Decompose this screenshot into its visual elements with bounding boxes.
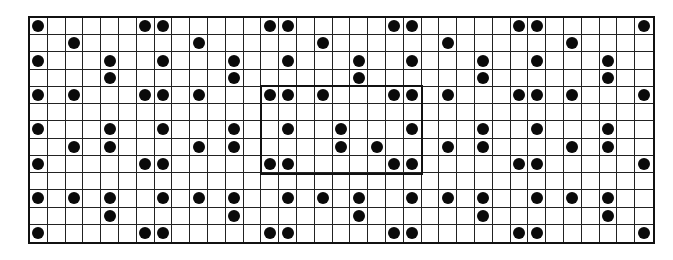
grid-cell bbox=[101, 70, 119, 87]
grid-cell bbox=[493, 139, 511, 156]
grid-cell bbox=[600, 225, 618, 242]
grid-cell bbox=[582, 139, 600, 156]
grid-cell bbox=[190, 104, 208, 121]
grid-cell bbox=[350, 87, 368, 104]
dot-icon bbox=[157, 192, 169, 204]
grid-cell bbox=[404, 52, 422, 69]
grid-cell bbox=[155, 208, 173, 225]
grid-cell bbox=[137, 35, 155, 52]
grid-cell bbox=[48, 87, 66, 104]
grid-cell bbox=[457, 18, 475, 35]
dot-icon bbox=[282, 158, 294, 170]
grid-cell bbox=[439, 208, 457, 225]
grid-cell bbox=[83, 225, 101, 242]
grid-cell bbox=[66, 70, 84, 87]
dot-icon bbox=[228, 210, 240, 222]
grid-cell bbox=[493, 52, 511, 69]
grid-cell bbox=[350, 208, 368, 225]
grid-cell bbox=[475, 225, 493, 242]
grid-cell bbox=[635, 70, 653, 87]
grid-cell bbox=[190, 18, 208, 35]
grid-cell bbox=[422, 225, 440, 242]
grid-cell bbox=[48, 18, 66, 35]
grid-cell bbox=[333, 156, 351, 173]
grid-cell bbox=[528, 156, 546, 173]
grid-cell bbox=[546, 156, 564, 173]
grid-cell bbox=[208, 35, 226, 52]
grid-cell bbox=[261, 52, 279, 69]
dot-icon bbox=[193, 192, 205, 204]
grid-cell bbox=[172, 156, 190, 173]
grid-cell bbox=[315, 208, 333, 225]
grid-cell bbox=[635, 104, 653, 121]
dot-icon bbox=[406, 55, 418, 67]
grid-cell bbox=[617, 139, 635, 156]
grid-cell bbox=[439, 87, 457, 104]
grid-cell bbox=[457, 173, 475, 190]
dot-icon bbox=[513, 89, 525, 101]
dot-icon bbox=[32, 123, 44, 135]
grid-cell bbox=[350, 70, 368, 87]
grid-cell bbox=[155, 104, 173, 121]
grid-cell bbox=[297, 18, 315, 35]
grid-cell bbox=[368, 173, 386, 190]
grid-cell bbox=[422, 52, 440, 69]
grid-cell bbox=[475, 139, 493, 156]
grid-cell bbox=[475, 87, 493, 104]
dot-icon bbox=[638, 20, 650, 32]
dot-icon bbox=[602, 55, 614, 67]
grid-cell bbox=[226, 35, 244, 52]
grid-cell bbox=[30, 156, 48, 173]
grid-cell bbox=[617, 52, 635, 69]
grid-cell bbox=[137, 156, 155, 173]
grid-cell bbox=[30, 190, 48, 207]
grid-cell bbox=[66, 190, 84, 207]
dot-icon bbox=[442, 192, 454, 204]
grid-cell bbox=[528, 139, 546, 156]
dot-icon bbox=[317, 37, 329, 49]
grid-cell bbox=[30, 70, 48, 87]
grid-cell bbox=[368, 18, 386, 35]
grid-cell bbox=[172, 208, 190, 225]
grid-cell bbox=[546, 121, 564, 138]
grid-cell bbox=[172, 190, 190, 207]
dot-icon bbox=[477, 192, 489, 204]
grid-cell bbox=[83, 52, 101, 69]
grid-cell bbox=[564, 156, 582, 173]
grid-cell bbox=[368, 208, 386, 225]
grid-cell bbox=[279, 35, 297, 52]
grid-cell bbox=[350, 156, 368, 173]
grid-cell bbox=[528, 104, 546, 121]
grid-cell bbox=[528, 70, 546, 87]
dot-icon bbox=[157, 89, 169, 101]
grid-cell bbox=[226, 87, 244, 104]
dot-icon bbox=[388, 227, 400, 239]
grid-cell bbox=[101, 190, 119, 207]
grid-cell bbox=[226, 173, 244, 190]
grid-cell bbox=[368, 87, 386, 104]
grid-cell bbox=[119, 139, 137, 156]
grid-cell bbox=[297, 35, 315, 52]
dot-icon bbox=[104, 72, 116, 84]
grid-cell bbox=[404, 173, 422, 190]
grid-cell bbox=[617, 18, 635, 35]
grid-cell bbox=[386, 156, 404, 173]
grid-cell bbox=[30, 52, 48, 69]
dot-icon bbox=[68, 141, 80, 153]
grid-cell bbox=[261, 18, 279, 35]
dot-icon bbox=[477, 141, 489, 153]
dot-icon bbox=[228, 72, 240, 84]
grid-cell bbox=[226, 18, 244, 35]
grid-cell bbox=[511, 190, 529, 207]
grid-cell bbox=[172, 35, 190, 52]
grid-cell bbox=[439, 139, 457, 156]
grid-cell bbox=[315, 70, 333, 87]
grid-cell bbox=[190, 52, 208, 69]
grid-cell bbox=[244, 35, 262, 52]
grid-cell bbox=[564, 121, 582, 138]
grid-cell bbox=[546, 190, 564, 207]
grid-cell bbox=[635, 52, 653, 69]
grid-cell bbox=[279, 121, 297, 138]
dot-icon bbox=[406, 227, 418, 239]
grid-cell bbox=[155, 156, 173, 173]
